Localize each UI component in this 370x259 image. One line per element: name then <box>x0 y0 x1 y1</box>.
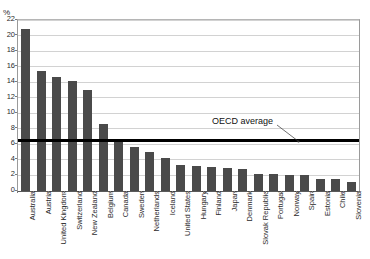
bar <box>331 179 340 191</box>
x-axis-tick-label: Finland <box>214 191 223 259</box>
bar <box>223 168 232 191</box>
x-axis-tick-label: Iceland <box>168 191 177 259</box>
x-axis-tick-label: United States <box>183 191 192 259</box>
bar <box>130 147 139 191</box>
bar <box>192 166 201 191</box>
x-axis-tick-label: Norway <box>292 191 301 259</box>
bars-layer <box>18 20 359 191</box>
x-axis-tick-mark <box>126 191 127 193</box>
bar <box>207 167 216 191</box>
x-axis-tick-label: Netherlands <box>152 191 161 259</box>
x-axis-tick-mark <box>343 191 344 193</box>
x-axis-tick-mark <box>33 191 34 193</box>
x-axis-tick-labels: AustraliaAustriaUnited KingdomSwitzerlan… <box>17 191 358 259</box>
bar <box>52 77 61 191</box>
bar <box>37 71 46 191</box>
x-axis-tick-mark <box>79 191 80 193</box>
x-axis-tick-label: Australia <box>28 191 37 259</box>
bar <box>99 124 108 191</box>
oecd-average-label: OECD average <box>212 116 273 127</box>
x-axis-tick-mark <box>358 191 359 193</box>
x-axis-tick-mark <box>188 191 189 193</box>
x-axis-tick-mark <box>265 191 266 193</box>
x-axis-tick-label: Slovenia <box>354 191 363 259</box>
x-axis-tick-mark <box>48 191 49 193</box>
x-axis-tick-mark <box>203 191 204 193</box>
bar <box>254 174 263 191</box>
x-axis-tick-label: Slovak Republic <box>261 191 270 259</box>
x-axis-tick-label: United Kingdom <box>59 191 68 259</box>
x-axis-tick-mark <box>234 191 235 193</box>
x-axis-tick-label: Spain <box>307 191 316 259</box>
bar <box>285 175 294 191</box>
x-axis-tick-mark <box>157 191 158 193</box>
x-axis-tick-mark <box>312 191 313 193</box>
x-axis-tick-label: Sweden <box>137 191 146 259</box>
bar <box>145 152 154 191</box>
chart-title-remnant <box>0 0 370 8</box>
oecd-average-leader-line <box>276 124 316 148</box>
x-axis-tick-label: Japan <box>230 191 239 259</box>
x-axis-tick-mark <box>327 191 328 193</box>
x-axis-tick-label: Hungary <box>199 191 208 259</box>
x-axis-tick-mark <box>250 191 251 193</box>
x-axis-tick-label: Austria <box>44 191 53 259</box>
x-axis-tick-label: Switzerland <box>75 191 84 259</box>
x-axis-tick-label: Portugal <box>276 191 285 259</box>
x-axis-tick-mark <box>219 191 220 193</box>
bar <box>161 158 170 191</box>
x-axis-tick-mark <box>296 191 297 193</box>
bar <box>347 182 356 191</box>
x-axis-tick-label: Belgium <box>106 191 115 259</box>
x-axis-tick-label: Denmark <box>245 191 254 259</box>
x-axis-tick-mark <box>141 191 142 193</box>
bar <box>176 165 185 191</box>
bar-chart-figure: % 0246810121416182022 OECD average Austr… <box>0 0 370 259</box>
bar <box>114 140 123 191</box>
bar <box>300 175 309 191</box>
x-axis-tick-label: Estonia <box>323 191 332 259</box>
x-axis-tick-label: Canada <box>121 191 130 259</box>
bar <box>269 174 278 191</box>
bar <box>68 81 77 191</box>
x-axis-tick-mark <box>64 191 65 193</box>
plot-area <box>17 19 360 192</box>
bar <box>238 169 247 191</box>
x-axis-tick-label: Chile <box>338 191 347 259</box>
x-axis-tick-mark <box>17 191 18 193</box>
x-axis-tick-mark <box>95 191 96 193</box>
x-axis-tick-mark <box>172 191 173 193</box>
x-axis-tick-mark <box>110 191 111 193</box>
bar <box>21 29 30 191</box>
y-axis-tick-marks <box>0 19 17 190</box>
bar <box>316 179 325 191</box>
x-axis-tick-mark <box>281 191 282 193</box>
x-axis-tick-label: New Zealand <box>90 191 99 259</box>
